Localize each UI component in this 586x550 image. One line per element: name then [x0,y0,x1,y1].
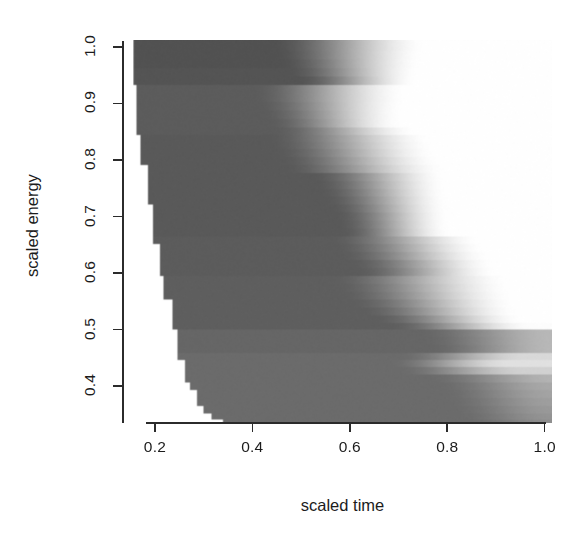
y-tick-label: 0.4 [81,363,99,407]
x-tick-label: 0.6 [325,438,375,456]
y-tick-label: 0.6 [81,250,99,294]
y-tick-mark [113,329,122,331]
y-tick-mark [113,46,122,48]
x-tick-mark [349,423,351,432]
y-tick-label: 0.5 [81,307,99,351]
y-axis-title: scaled energy [23,146,42,306]
x-tick-mark [154,423,156,432]
y-tick-mark [113,103,122,105]
y-tick-mark [113,159,122,161]
heatmap-figure: 0.40.50.60.70.80.91.0 0.20.40.60.81.0 sc… [0,0,586,550]
x-tick-label: 0.8 [422,438,472,456]
x-tick-label: 1.0 [520,438,570,456]
y-tick-mark [113,385,122,387]
y-tick-label: 0.8 [81,137,99,181]
y-tick-label: 1.0 [81,24,99,68]
x-tick-label: 0.2 [130,438,180,456]
x-tick-mark [252,423,254,432]
x-axis-title: scaled time [133,496,552,515]
y-tick-label: 0.9 [81,80,99,124]
x-tick-label: 0.4 [227,438,277,456]
y-axis-line [122,41,124,423]
x-axis-line [146,422,546,424]
x-tick-mark [544,423,546,432]
y-tick-mark [113,216,122,218]
heatmap-plot-area [133,40,552,423]
y-tick-label: 0.7 [81,194,99,238]
x-tick-mark [446,423,448,432]
y-tick-mark [113,272,122,274]
